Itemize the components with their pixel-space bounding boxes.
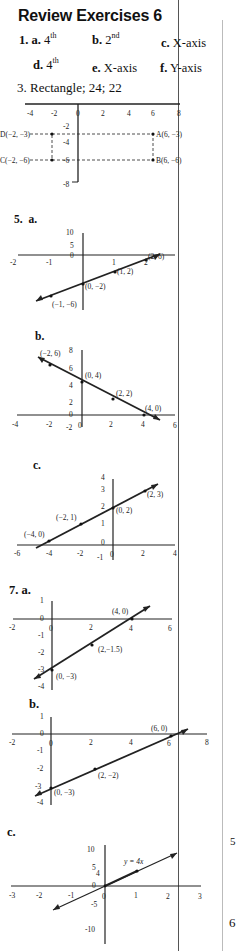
svg-text:0: 0 [92,881,96,890]
svg-text:(2,−1.5): (2,−1.5) [98,645,123,654]
svg-text:(−2, 1): (−2, 1) [56,513,77,522]
svg-text:0: 0 [69,410,73,419]
svg-text:6: 6 [167,739,171,748]
svg-text:(0, −2): (0, −2) [85,282,106,291]
svg-text:2: 2 [89,623,93,632]
svg-text:10: 10 [87,845,95,854]
svg-text:2: 2 [101,109,105,118]
svg-text:-4: -4 [27,109,33,118]
svg-text:(2, 3): (2, 3) [147,490,164,499]
graph-7a: -2 0 2 4 6 1 0 -1 -2 -3 -4 (4, 0) (2,−1.… [0,600,200,695]
svg-text:3: 3 [198,892,202,901]
margin-fragment-6: 6 [229,915,236,931]
svg-text:-2: -2 [66,423,72,432]
svg-text:4: 4 [127,109,131,118]
svg-text:4: 4 [173,549,177,558]
svg-text:0: 0 [40,729,44,738]
svg-text:2: 2 [166,892,170,901]
svg-text:4: 4 [69,381,73,390]
exercise-5a-label: 5. a. [14,213,37,225]
margin-fragment-5: 5 [230,835,236,847]
svg-text:0: 0 [101,538,105,547]
svg-text:2: 2 [89,738,93,747]
svg-text:-3: -3 [35,782,41,791]
answer-1a: 1. a. 4th [19,33,56,48]
svg-text:-3: -3 [38,665,44,674]
svg-text:4: 4 [141,420,145,429]
svg-text:(6, 0): (6, 0) [151,724,168,733]
svg-text:-4: -4 [38,682,44,691]
graph-rectangle: -4 -2 0 2 4 6 8 -2 -4 -6 -8 D(−2, −3) C(… [0,100,237,190]
svg-text:(0, 4): (0, 4) [85,371,102,380]
answer-1f: f. Y-axis [160,61,202,76]
svg-text:-2: -2 [10,258,16,267]
svg-text:(4, 0): (4, 0) [112,607,129,616]
svg-text:(0, −3): (0, −3) [56,672,77,681]
svg-text:(−1, −6): (−1, −6) [52,300,77,309]
svg-text:2: 2 [69,398,73,407]
svg-text:-6: -6 [63,156,69,165]
answer-1d: d. 4th [33,58,59,73]
svg-text:B(6, −6): B(6, −6) [156,156,182,165]
exercise-7b-label: b. [29,697,39,712]
svg-text:1: 1 [101,519,105,528]
svg-text:-2: -2 [63,122,69,131]
answer-1b: b. 2nd [92,33,119,48]
svg-text:y = 4x: y = 4x [123,857,144,866]
svg-text:-2: -2 [46,420,52,429]
svg-text:-1: -1 [46,258,52,267]
svg-text:0: 0 [49,739,53,748]
svg-text:(2, 2): (2, 2) [116,389,133,398]
svg-text:(−4, 0): (−4, 0) [24,530,45,539]
svg-text:-4: -4 [46,549,52,558]
svg-text:1: 1 [112,258,116,267]
svg-text:-2: -2 [9,738,15,747]
svg-text:4: 4 [96,869,100,878]
svg-text:-1: -1 [68,891,74,900]
svg-text:-2: -2 [9,623,15,632]
svg-text:4: 4 [129,624,133,633]
graph-5a: -2 -1 1 2 10 5 0 (2, 6) (1, 2) (0, −2) (… [0,225,180,325]
svg-text:-2: -2 [36,891,42,900]
svg-text:-1: -1 [97,553,103,562]
svg-text:-1: -1 [38,631,44,640]
exercise-5c-label: c. [33,459,41,471]
svg-text:0: 0 [102,892,106,901]
page-title: Review Exercises 6 [18,7,162,25]
svg-text:-3: -3 [9,891,15,900]
svg-text:5: 5 [70,241,74,250]
graph-7c: -3 -2 -1 0 1 2 3 10 5 4 0 -5 -10 y = 4x [0,840,237,950]
svg-text:6: 6 [69,364,73,373]
svg-text:6: 6 [151,109,155,118]
svg-text:0: 0 [110,550,114,559]
svg-text:-2: -2 [38,648,44,657]
svg-text:(2, −2): (2, −2) [98,771,119,780]
svg-text:-10: -10 [85,925,95,934]
svg-text:1: 1 [40,712,44,721]
svg-text:10: 10 [66,228,74,237]
graph-5c: -6 -4 -2 0 2 4 4 3 2 1 0 -1 (2, 3) (0, 2… [0,475,200,575]
svg-text:4: 4 [129,738,133,747]
svg-text:-8: -8 [63,180,69,189]
svg-text:0: 0 [78,421,82,430]
svg-text:-5: -5 [91,900,97,909]
answer-1c: c. X-axis [161,36,206,51]
svg-text:8: 8 [69,346,73,355]
svg-text:(−2, 6): (−2, 6) [40,349,61,358]
svg-text:8: 8 [177,109,181,118]
svg-text:(1, 2): (1, 2) [117,267,134,276]
svg-text:6: 6 [168,624,172,633]
svg-text:2: 2 [109,420,113,429]
svg-text:-4: -4 [63,138,69,147]
graph-7b: -2 0 2 4 6 8 1 0 -1 -2 -3 -4 (6, 0) (2, … [0,715,237,815]
svg-text:0: 0 [49,624,53,633]
svg-text:0: 0 [40,614,44,623]
svg-text:A(6, −3): A(6, −3) [156,130,182,139]
svg-text:6: 6 [173,421,177,430]
svg-text:-2: -2 [51,109,57,118]
svg-text:-2: -2 [37,764,43,773]
exercise-7a-label: 7. a. [9,583,31,598]
svg-text:4: 4 [101,473,105,482]
svg-text:3: 3 [101,485,105,494]
answer-1e: e. X-axis [92,61,137,76]
